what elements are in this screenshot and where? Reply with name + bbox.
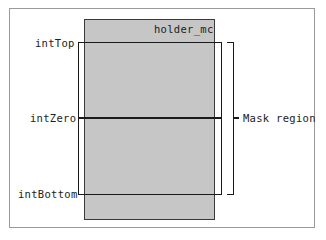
int-zero-line bbox=[78, 117, 222, 119]
holder-mc-label: holder_mc bbox=[154, 23, 214, 35]
int-bottom-label: intBottom bbox=[18, 188, 78, 200]
mask-region-label: Mask region bbox=[243, 112, 316, 124]
mask-region-bracket-tick bbox=[234, 117, 239, 119]
mask-region-rect bbox=[78, 42, 222, 195]
mask-region-bracket bbox=[227, 42, 234, 195]
int-top-label: intTop bbox=[35, 37, 75, 49]
int-zero-label: intZero bbox=[30, 112, 76, 124]
